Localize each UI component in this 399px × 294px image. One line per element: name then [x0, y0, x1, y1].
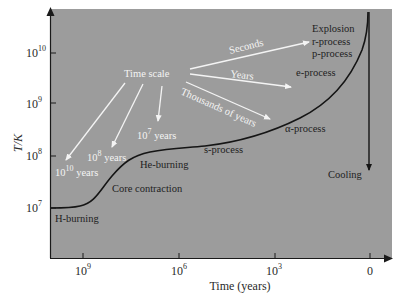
- x-tick-0: 0: [367, 264, 373, 278]
- label-1e8-years: 108 years: [87, 149, 126, 163]
- y-tick-1e10: 1010: [26, 44, 46, 60]
- y-axis-label: T/K: [11, 133, 25, 152]
- x-tick-1e6: 106: [171, 262, 187, 278]
- x-axis-label: Time (years): [209, 279, 270, 293]
- label-alpha-process: α-process: [285, 123, 326, 134]
- label-cooling: Cooling: [328, 169, 363, 180]
- time-scale-title: Time scale: [124, 68, 170, 79]
- label-h-burning: H-burning: [55, 213, 99, 224]
- y-tick-1e9: 109: [26, 95, 42, 111]
- label-1e7-years: 107 years: [137, 127, 176, 141]
- y-tick-1e7: 107: [26, 199, 42, 215]
- x-tick-1e3: 103: [266, 262, 282, 278]
- label-s-process: s-process: [204, 144, 243, 155]
- chart: 1010 109 108 107 T/K 109 106 103 0 Time …: [0, 0, 399, 294]
- label-r-process: r-process: [312, 36, 350, 47]
- label-explosion: Explosion: [312, 23, 355, 34]
- label-he-burning: He-burning: [140, 159, 189, 170]
- label-e-process: e-process: [296, 67, 336, 78]
- x-tick-1e9: 109: [75, 262, 91, 278]
- label-core-contraction: Core contraction: [112, 183, 183, 194]
- label-p-process: p-process: [312, 48, 352, 59]
- y-tick-1e8: 108: [26, 147, 42, 163]
- label-1e10-years: 1010 years: [55, 164, 98, 178]
